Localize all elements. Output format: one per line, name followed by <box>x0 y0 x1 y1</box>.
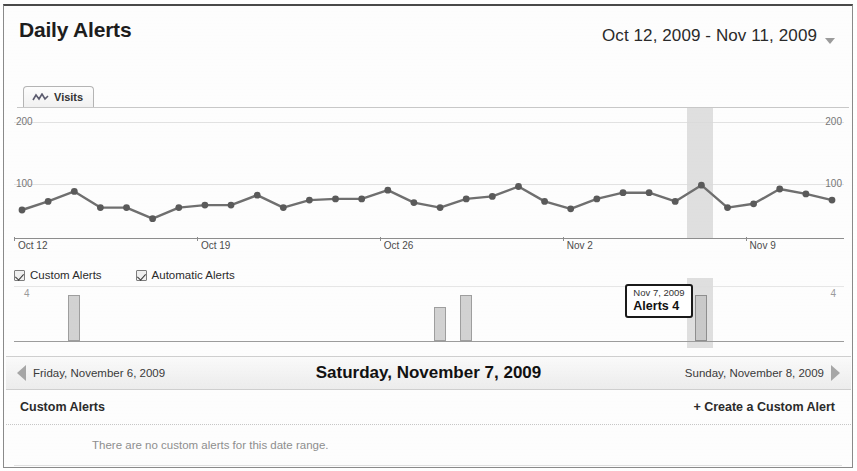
chevron-down-icon[interactable] <box>825 38 835 44</box>
x-axis-tickmark <box>746 237 747 241</box>
alerts-bar-chart: 4 4 Nov 7, 2009 Alerts 4 <box>14 286 844 348</box>
custom-alerts-section: Custom Alerts + Create a Custom Alert Th… <box>6 390 851 466</box>
bar-y-axis-right-label: 4 <box>830 288 836 299</box>
checkbox-checked-icon[interactable] <box>14 270 25 281</box>
tab-visits-label: Visits <box>54 91 83 103</box>
x-axis-tickmark <box>14 237 15 241</box>
day-navigation-bar: Friday, November 6, 2009 Saturday, Novem… <box>6 356 851 390</box>
alert-bar[interactable] <box>434 307 446 342</box>
prev-day-label: Friday, November 6, 2009 <box>33 367 165 379</box>
checkbox-checked-icon[interactable] <box>136 270 147 281</box>
next-day-label: Sunday, November 8, 2009 <box>685 367 824 379</box>
x-axis-tickmark <box>197 237 198 241</box>
page-title: Daily Alerts <box>19 18 131 42</box>
bar-baseline <box>14 341 844 342</box>
page-header: Daily Alerts Oct 12, 2009 - Nov 11, 2009 <box>5 6 851 60</box>
tab-visits[interactable]: Visits <box>23 86 94 107</box>
bar-y-axis-left-label: 4 <box>24 288 30 299</box>
section-divider <box>14 465 842 466</box>
x-axis-tick-label: Oct 12 <box>18 240 47 251</box>
checkbox-automatic-alerts-label: Automatic Alerts <box>152 269 235 281</box>
x-axis-tick: Oct 26 <box>384 240 413 251</box>
custom-alerts-header: Custom Alerts + Create a Custom Alert <box>6 390 851 425</box>
x-axis-tick: Nov 9 <box>750 240 776 251</box>
alert-bar[interactable] <box>695 295 707 341</box>
x-axis-tickmark <box>380 237 381 241</box>
x-axis-tick: Nov 2 <box>567 240 593 251</box>
chart-tabstrip: Visits <box>5 86 851 108</box>
visits-line-chart: 200 100 200 100 <box>14 108 844 238</box>
x-axis-tickmark <box>563 237 564 241</box>
alert-bar[interactable] <box>460 295 472 341</box>
prev-day-button[interactable]: Friday, November 6, 2009 <box>17 365 165 381</box>
custom-alerts-title: Custom Alerts <box>20 400 105 414</box>
x-axis-tick-label: Oct 26 <box>384 240 413 251</box>
bar-gridline-top <box>14 286 844 287</box>
sparkline-icon <box>32 88 49 106</box>
visits-line-series[interactable] <box>14 108 844 238</box>
checkbox-automatic-alerts[interactable]: Automatic Alerts <box>136 269 235 281</box>
create-custom-alert-link[interactable]: + Create a Custom Alert <box>693 400 835 414</box>
arrow-right-icon[interactable] <box>831 365 840 381</box>
x-axis-line <box>14 238 844 239</box>
date-range-selector[interactable]: Oct 12, 2009 - Nov 11, 2009 <box>602 26 817 46</box>
x-axis-tick-label: Nov 2 <box>567 240 593 251</box>
x-axis-ticks: Oct 12Oct 19Oct 26Nov 2Nov 9 <box>14 240 844 256</box>
alert-bar[interactable] <box>68 295 80 341</box>
checkbox-custom-alerts[interactable]: Custom Alerts <box>14 269 102 281</box>
daily-alerts-page: Daily Alerts Oct 12, 2009 - Nov 11, 2009… <box>0 0 857 471</box>
tooltip-value: Alerts 4 <box>633 299 684 313</box>
x-axis-tick-label: Oct 19 <box>201 240 230 251</box>
x-axis-tick: Oct 12 <box>18 240 47 251</box>
alert-type-filters: Custom Alerts Automatic Alerts <box>14 266 844 284</box>
x-axis-tick: Oct 19 <box>201 240 230 251</box>
next-day-button[interactable]: Sunday, November 8, 2009 <box>685 365 840 381</box>
checkbox-custom-alerts-label: Custom Alerts <box>30 269 102 281</box>
custom-alerts-empty-message: There are no custom alerts for this date… <box>92 439 851 451</box>
arrow-left-icon[interactable] <box>17 365 26 381</box>
x-axis-tick-label: Nov 9 <box>750 240 776 251</box>
alert-tooltip: Nov 7, 2009 Alerts 4 <box>625 284 692 318</box>
tooltip-date: Nov 7, 2009 <box>633 288 684 299</box>
